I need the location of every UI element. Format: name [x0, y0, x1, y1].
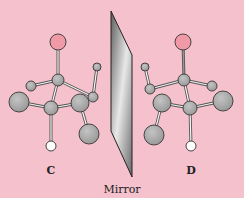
label-c: C: [47, 164, 56, 177]
molecule-d: [141, 34, 233, 151]
label-d: D: [186, 164, 196, 177]
hydrogen-atom: [186, 141, 196, 151]
oxygen-atom: [175, 34, 191, 50]
hydrogen-atom: [46, 141, 56, 151]
label-mirror: Mirror: [103, 183, 140, 196]
mirror-image-diagram: [0, 0, 244, 198]
mirror-plane: [111, 11, 132, 177]
molecule-c: [9, 34, 101, 151]
oxygen-atom: [50, 34, 66, 50]
